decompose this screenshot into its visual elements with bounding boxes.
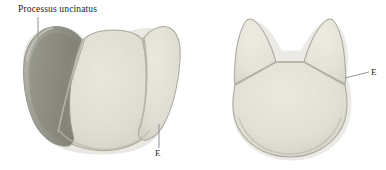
label-processus-uncinatus: Processus uncinatus xyxy=(18,5,97,15)
right-specimen xyxy=(232,19,369,161)
figure-plate: Processus uncinatus E E xyxy=(0,0,386,170)
leader-line-e-right xyxy=(345,72,369,78)
anatomical-illustration xyxy=(0,0,386,170)
left-specimen xyxy=(23,17,180,155)
label-e-right: E xyxy=(371,68,377,77)
label-e-left: E xyxy=(155,149,161,158)
